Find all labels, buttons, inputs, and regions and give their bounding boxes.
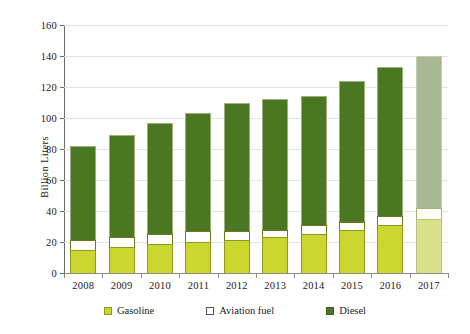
legend-label: Aviation fuel [219, 305, 274, 316]
bar-segment-aviation-fuel-2013[interactable] [262, 230, 288, 238]
y-tick-label-20: 20 [46, 237, 57, 248]
x-tick-label-2012: 2012 [226, 280, 248, 291]
bar-segment-aviation-fuel-2010[interactable] [147, 234, 173, 243]
x-tick-mark-5 [256, 273, 257, 278]
bar-segment-diesel-2011[interactable] [185, 113, 211, 231]
bar-group-2017[interactable] [416, 56, 442, 273]
bar-segment-diesel-2014[interactable] [301, 96, 327, 225]
bar-segment-gasoline-2015[interactable] [339, 230, 365, 273]
bar-group-2014[interactable] [301, 96, 327, 273]
bar-group-2012[interactable] [224, 103, 250, 273]
x-tick-mark-8 [371, 273, 372, 278]
bar-segment-diesel-2016[interactable] [377, 67, 403, 216]
y-tick-label-80: 80 [46, 144, 57, 155]
bar-group-2010[interactable] [147, 123, 173, 273]
x-tick-label-2015: 2015 [341, 280, 363, 291]
bar-segment-aviation-fuel-2015[interactable] [339, 222, 365, 230]
bar-segment-aviation-fuel-2017[interactable] [416, 208, 442, 219]
bar-segment-gasoline-2013[interactable] [262, 237, 288, 273]
x-tick-label-2011: 2011 [188, 280, 209, 291]
x-tick-mark-0 [64, 273, 65, 278]
legend-swatch-icon-diesel [326, 307, 334, 315]
bar-segment-aviation-fuel-2014[interactable] [301, 225, 327, 234]
x-tick-mark-9 [410, 273, 411, 278]
y-tick-label-0: 0 [52, 268, 57, 279]
x-tick-label-2010: 2010 [149, 280, 171, 291]
bar-segment-diesel-2010[interactable] [147, 123, 173, 235]
bar-segment-diesel-2008[interactable] [70, 146, 96, 241]
y-tick-label-120: 120 [41, 82, 57, 93]
plot-area: 020406080100120140160 [64, 25, 448, 273]
bar-segment-diesel-2009[interactable] [109, 135, 135, 237]
bar-segment-gasoline-2009[interactable] [109, 247, 135, 273]
bar-segment-gasoline-2008[interactable] [70, 250, 96, 273]
x-tick-mark-1 [102, 273, 103, 278]
x-tick-label-2017: 2017 [418, 280, 440, 291]
legend-label: Diesel [339, 305, 366, 316]
x-tick-mark-2 [141, 273, 142, 278]
x-tick-mark-3 [179, 273, 180, 278]
bar-group-2016[interactable] [377, 67, 403, 273]
y-tick-label-60: 60 [46, 175, 57, 186]
bar-group-2013[interactable] [262, 99, 288, 273]
y-tick-label-100: 100 [41, 113, 57, 124]
bars-layer [64, 25, 448, 273]
bar-group-2009[interactable] [109, 135, 135, 273]
bar-segment-gasoline-2012[interactable] [224, 240, 250, 273]
bar-group-2015[interactable] [339, 81, 365, 273]
legend-swatch-icon-aviation-fuel [206, 307, 214, 315]
bar-segment-diesel-2017[interactable] [416, 56, 442, 208]
bar-segment-aviation-fuel-2011[interactable] [185, 231, 211, 242]
bar-segment-gasoline-2014[interactable] [301, 234, 327, 273]
bar-group-2008[interactable] [70, 146, 96, 273]
bar-segment-aviation-fuel-2009[interactable] [109, 237, 135, 246]
stacked-bar-chart: Billion Liters 020406080100120140160 200… [0, 0, 470, 334]
bar-segment-aviation-fuel-2008[interactable] [70, 240, 96, 249]
y-tick-label-40: 40 [46, 206, 57, 217]
legend-swatch-icon-gasoline [104, 307, 112, 315]
legend-label: Gasoline [117, 305, 154, 316]
y-tick-label-160: 160 [41, 20, 57, 31]
x-tick-label-2014: 2014 [303, 280, 325, 291]
x-tick-label-2009: 2009 [111, 280, 133, 291]
bar-segment-aviation-fuel-2016[interactable] [377, 216, 403, 225]
bar-segment-gasoline-2016[interactable] [377, 225, 403, 273]
legend-item-aviation-fuel[interactable]: Aviation fuel [206, 305, 274, 316]
y-tick-label-140: 140 [41, 51, 57, 62]
bar-segment-gasoline-2010[interactable] [147, 244, 173, 273]
x-tick-mark-4 [218, 273, 219, 278]
x-tick-label-2016: 2016 [379, 280, 401, 291]
legend-item-diesel[interactable]: Diesel [326, 305, 366, 316]
x-tick-label-2013: 2013 [264, 280, 286, 291]
bar-group-2011[interactable] [185, 113, 211, 273]
bar-segment-diesel-2013[interactable] [262, 99, 288, 229]
bar-segment-gasoline-2011[interactable] [185, 242, 211, 273]
bar-segment-gasoline-2017[interactable] [416, 219, 442, 273]
chart-legend: GasolineAviation fuelDiesel [0, 305, 470, 316]
x-tick-label-2008: 2008 [72, 280, 94, 291]
x-tick-mark-6 [294, 273, 295, 278]
bar-segment-aviation-fuel-2012[interactable] [224, 231, 250, 240]
x-tick-mark-end [448, 273, 449, 278]
bar-segment-diesel-2015[interactable] [339, 81, 365, 222]
bar-segment-diesel-2012[interactable] [224, 103, 250, 232]
legend-item-gasoline[interactable]: Gasoline [104, 305, 154, 316]
x-tick-mark-7 [333, 273, 334, 278]
